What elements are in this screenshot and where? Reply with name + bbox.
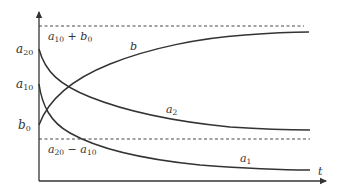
y-label-a10: a10 — [16, 77, 33, 92]
curve-b-label: b — [130, 40, 137, 53]
curve-a2-label: a2 — [166, 103, 178, 117]
curve-a2 — [39, 49, 310, 130]
x-axis-label: t — [318, 165, 323, 178]
upper-asymptote-label: a10 + b0 — [48, 30, 92, 44]
y-label-b0: b0 — [18, 118, 31, 133]
y-label-a20: a20 — [16, 42, 33, 57]
lower-asymptote-label: a20 − a10 — [48, 143, 97, 157]
curve-a1-label: a1 — [240, 152, 251, 166]
curve-a1 — [39, 84, 310, 170]
reaction-kinetics-diagram: a20 a10 b0 a10 + b0 a20 − a10 b a2 a1 t — [0, 0, 339, 192]
